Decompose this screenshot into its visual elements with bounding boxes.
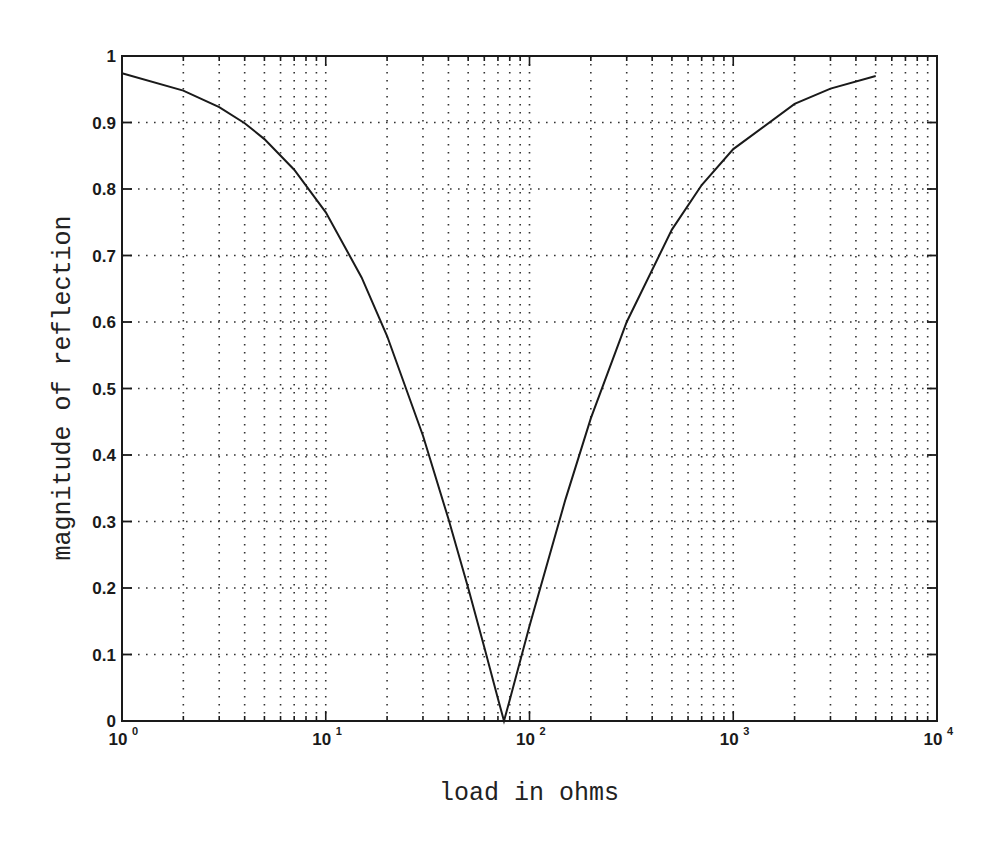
- x-axis-label: load in ohms: [439, 779, 619, 808]
- svg-text:10: 10: [109, 730, 128, 749]
- svg-text:10: 10: [924, 730, 943, 749]
- y-tick-label: 0.3: [92, 513, 116, 532]
- y-tick-label: 0.1: [92, 646, 116, 665]
- svg-text:10: 10: [720, 730, 739, 749]
- data-line: [122, 73, 876, 721]
- reflection-chart: 00.10.20.30.40.50.60.70.80.91 1001011021…: [0, 0, 994, 856]
- svg-text:0: 0: [132, 725, 138, 737]
- y-tick-labels: 00.10.20.30.40.50.60.70.80.91: [92, 47, 116, 731]
- svg-text:4: 4: [947, 725, 954, 737]
- plot-frame: [122, 56, 937, 721]
- svg-text:10: 10: [516, 730, 535, 749]
- x-tick-label: 103: [720, 725, 750, 749]
- svg-text:1: 1: [336, 725, 342, 737]
- y-tick-label: 1: [107, 47, 116, 66]
- y-tick-label: 0.5: [92, 380, 116, 399]
- y-tick-label: 0.6: [92, 313, 116, 332]
- y-tick-label: 0.8: [92, 180, 116, 199]
- y-tick-label: 0.9: [92, 114, 116, 133]
- x-tick-label: 102: [516, 725, 546, 749]
- tick-marks: [122, 56, 937, 721]
- y-tick-label: 0: [107, 712, 116, 731]
- svg-text:10: 10: [312, 730, 331, 749]
- y-axis-label: magnitude of reflection: [49, 215, 78, 560]
- y-tick-label: 0.4: [92, 446, 116, 465]
- x-tick-labels: 100101102103104: [109, 725, 954, 749]
- x-tick-label: 104: [924, 725, 954, 749]
- x-tick-label: 101: [312, 725, 342, 749]
- svg-text:2: 2: [540, 725, 546, 737]
- y-tick-label: 0.2: [92, 579, 116, 598]
- y-tick-label: 0.7: [92, 247, 116, 266]
- grid-lines: [122, 56, 937, 721]
- svg-text:3: 3: [743, 725, 749, 737]
